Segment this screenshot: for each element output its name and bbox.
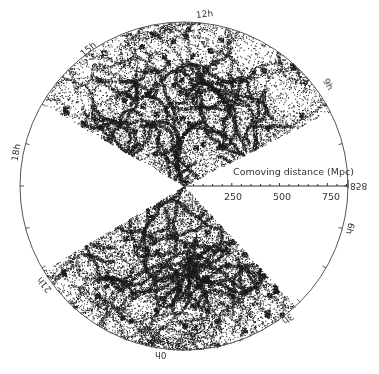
ra-label-6h: 6h — [344, 222, 356, 235]
tick-label-500: 500 — [273, 191, 291, 202]
galaxy-cone-plot — [0, 0, 379, 374]
tick-label-750: 750 — [322, 191, 340, 202]
ra-label-0h: 0h — [155, 350, 166, 359]
axis-title: Comoving distance (Mpc) — [233, 166, 354, 177]
tick-label-250: 250 — [224, 191, 242, 202]
max-distance-label: 858 — [350, 181, 367, 191]
ra-label-12h: 12h — [196, 9, 214, 20]
